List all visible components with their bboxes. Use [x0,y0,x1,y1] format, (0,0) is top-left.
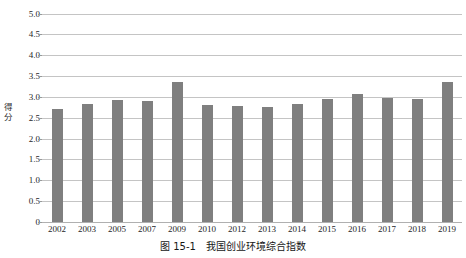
bar [442,82,453,222]
figure-number: 图 15-1 [160,241,196,252]
y-axis-tick-label: 5.0 [16,9,40,18]
bar [52,109,63,222]
bar-chart: 得分 5.04.54.03.53.02.52.01.51.00.50 20022… [0,0,466,236]
bar [382,98,393,222]
bar [232,106,243,222]
bar [82,104,93,222]
x-axis-tick-labels: 2002200320052007200920102012201320142015… [42,224,462,238]
y-axis-tick-label: 2.5 [16,113,40,122]
figure-container: 得分 5.04.54.03.53.02.52.01.51.00.50 20022… [0,0,466,258]
bar [292,104,303,222]
bar-series [42,0,462,236]
bar [352,94,363,222]
y-axis-tick-label: 0.5 [16,197,40,206]
bar [412,99,423,222]
bar [202,105,213,222]
y-axis-tick-label: 1.0 [16,176,40,185]
y-axis-tick-labels: 5.04.54.03.53.02.52.01.51.00.50 [16,0,40,236]
figure-caption: 图 15-1我国创业环境综合指数 [0,240,466,253]
y-axis-tick-label: 2.0 [16,134,40,143]
bar [142,101,153,222]
bar [172,82,183,222]
y-axis-tick-label: 1.5 [16,155,40,164]
bar [322,99,333,222]
bar [262,107,273,222]
x-axis-tick-label: 2019 [427,224,466,235]
y-axis-title: 得分 [1,103,15,122]
y-axis-tick-label: 3.5 [16,72,40,81]
y-axis-tick-label: 4.5 [16,30,40,39]
y-axis-tick-label: 3.0 [16,92,40,101]
bar [112,100,123,222]
figure-caption-text: 我国创业环境综合指数 [206,241,306,252]
y-axis-tick-label: 4.0 [16,51,40,60]
